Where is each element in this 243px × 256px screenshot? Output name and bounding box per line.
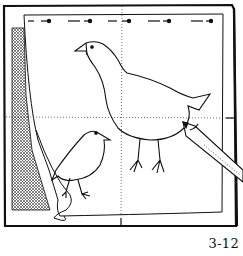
illustration: [0, 0, 243, 232]
figure-caption: 3-12: [209, 236, 239, 251]
paper-sheet: [24, 14, 223, 216]
